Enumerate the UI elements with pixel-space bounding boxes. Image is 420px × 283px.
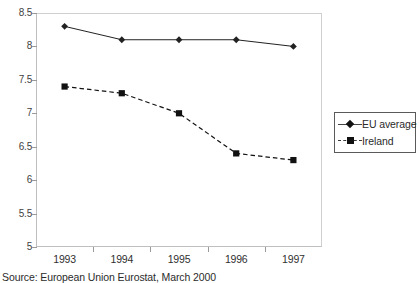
legend-item-eu-average: EU average [338, 117, 416, 131]
data-point [62, 83, 68, 89]
chart-caption: Source: European Union Eurostat, March 2… [2, 271, 332, 283]
y-axis-tick-label: 7 [4, 108, 32, 118]
x-axis-tick-mark [208, 247, 209, 252]
x-axis-tick-label: 1995 [149, 253, 209, 265]
x-axis-tick-label: 1996 [206, 253, 266, 265]
y-axis-tick-mark [32, 80, 37, 81]
y-axis-tick-label: 5.5 [4, 209, 32, 219]
y-axis-tick-label: 6.5 [4, 142, 32, 152]
y-axis-tick-mark [32, 247, 37, 248]
data-point [233, 150, 239, 156]
data-point [61, 23, 68, 30]
x-axis-tick-label: 1993 [35, 253, 95, 265]
data-point [119, 90, 125, 96]
x-axis-tick-label: 1994 [92, 253, 152, 265]
y-axis-tick-mark [32, 13, 37, 14]
data-point [118, 36, 125, 43]
series-line-ireland [65, 87, 294, 161]
y-axis-tick-mark [32, 214, 37, 215]
legend-label-eu-average: EU average [362, 118, 416, 130]
y-axis-tick-label: 7.5 [4, 75, 32, 85]
y-axis: 8.587.576.565.55 [0, 0, 32, 280]
data-point [290, 157, 296, 163]
series-layer [36, 13, 322, 247]
y-axis-tick-label: 6 [4, 175, 32, 185]
y-axis-tick-mark [32, 180, 37, 181]
y-axis-tick-mark [32, 113, 37, 114]
data-point [233, 36, 240, 43]
x-axis-tick-mark [150, 247, 151, 252]
y-axis-tick-label: 5 [4, 242, 32, 252]
data-point [176, 36, 183, 43]
x-axis-tick-label: 1997 [263, 253, 323, 265]
legend-marker-square-icon [338, 135, 362, 147]
x-axis-tick-mark [265, 247, 266, 252]
y-axis-tick-label: 8 [4, 41, 32, 51]
data-point [290, 43, 297, 50]
y-axis-tick-mark [32, 46, 37, 47]
y-axis-tick-label: 8.5 [4, 8, 32, 18]
legend-marker-diamond-icon [338, 118, 362, 130]
legend-item-ireland: Ireland [338, 134, 393, 148]
legend: EU average Ireland [334, 112, 416, 153]
y-axis-tick-mark [32, 147, 37, 148]
legend-label-ireland: Ireland [362, 135, 393, 147]
data-point [176, 110, 182, 116]
x-axis-tick-mark [93, 247, 94, 252]
